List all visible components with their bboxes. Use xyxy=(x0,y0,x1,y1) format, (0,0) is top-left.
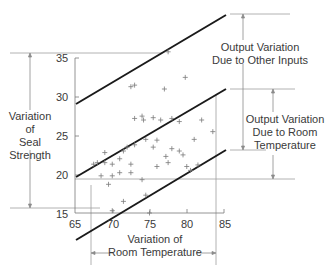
x-tick-65: 65 xyxy=(69,218,81,230)
label-line: Room Temperature xyxy=(105,246,205,259)
label-line: Due to Other Inputs xyxy=(205,54,315,67)
y-tick-20: 20 xyxy=(56,169,68,181)
x-tick-70: 70 xyxy=(107,218,119,230)
label-line: Strength xyxy=(4,149,56,162)
other-inputs-label: Output Variation Due to Other Inputs xyxy=(205,41,315,67)
x-tick-85: 85 xyxy=(219,218,231,230)
x-tick-80: 80 xyxy=(181,218,193,230)
y-tick-15: 15 xyxy=(56,208,68,220)
label-line: Variation of xyxy=(105,233,205,246)
label-line: Variation xyxy=(4,110,56,123)
label-line: Due to Room xyxy=(240,126,330,139)
upper-band-line xyxy=(76,15,226,104)
axes xyxy=(75,58,224,213)
label-line: Output Variation xyxy=(240,113,330,126)
label-line: Temperature xyxy=(240,139,330,152)
x-tick-75: 75 xyxy=(144,218,156,230)
room-temp-output-label: Output Variation Due to Room Temperature xyxy=(240,113,330,152)
seal-strength-label: Variation of Seal Strength xyxy=(4,110,56,162)
scatter-diagram: 35 30 25 20 15 65 70 75 80 85 Variation … xyxy=(0,0,330,269)
y-tick-25: 25 xyxy=(56,130,68,142)
label-line: of xyxy=(4,123,56,136)
label-line: Seal xyxy=(4,136,56,149)
y-tick-35: 35 xyxy=(56,52,68,64)
y-tick-30: 30 xyxy=(56,91,68,103)
room-temp-x-label: Variation of Room Temperature xyxy=(105,233,205,259)
label-line: Output Variation xyxy=(205,41,315,54)
band-lines xyxy=(76,15,226,240)
